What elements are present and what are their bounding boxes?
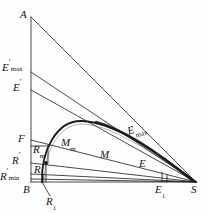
label-R1: R1 xyxy=(46,196,56,207)
label-S: S xyxy=(191,184,197,195)
label-E-max: Emax xyxy=(126,121,147,137)
label-B: B xyxy=(23,184,30,195)
label-R-prime: R′ xyxy=(12,155,20,166)
label-A: A xyxy=(20,9,27,20)
label-Mm: Mm xyxy=(61,137,76,148)
geometry-figure: A E′max E′ F R′ R′min B R1 Rm R Mm M E E… xyxy=(0,0,208,214)
line-Eprime-S xyxy=(31,90,196,182)
point-marker-R xyxy=(44,161,48,165)
line-A-S xyxy=(31,17,196,182)
label-E-prime: E′ xyxy=(13,82,21,93)
label-E1: E1 xyxy=(155,184,165,195)
label-R: R xyxy=(34,164,41,175)
label-E: E xyxy=(139,158,146,169)
label-E-prime-max: E′max xyxy=(2,62,23,73)
line-F-S xyxy=(31,140,196,182)
leader-R1 xyxy=(42,182,50,196)
label-R-prime-min: R′min xyxy=(0,171,19,182)
label-Rm: Rm xyxy=(33,144,45,155)
label-F: F xyxy=(18,133,25,144)
diagram-canvas xyxy=(0,0,208,214)
label-M: M xyxy=(100,149,109,160)
